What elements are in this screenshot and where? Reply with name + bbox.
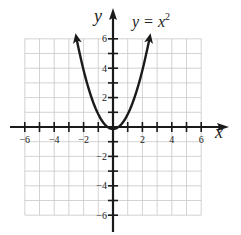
x-tick-label: −6 [19, 134, 30, 145]
axes [10, 8, 229, 232]
y-tick-label: −2 [96, 151, 107, 162]
x-axis-label: x [214, 122, 223, 142]
y-tick-label: −6 [96, 210, 107, 221]
x-tick-label: −4 [49, 134, 60, 145]
y-tick-label: 6 [102, 33, 107, 44]
y-tick-label: 4 [102, 63, 107, 74]
parabola-chart: −6−4−2246642−2−4−6 y x y = x2 [0, 0, 241, 235]
x-tick-label: 2 [140, 134, 145, 145]
equation-base: y = x [130, 13, 165, 31]
x-tick-label: 6 [199, 134, 204, 145]
x-tick-label: −2 [78, 134, 89, 145]
y-tick-label: 2 [102, 92, 107, 103]
x-tick-label: 4 [169, 134, 174, 145]
equation-exponent: 2 [165, 11, 170, 22]
equation-label: y = x2 [130, 11, 170, 31]
y-axis-label: y [92, 6, 102, 26]
y-tick-label: −4 [96, 180, 107, 191]
